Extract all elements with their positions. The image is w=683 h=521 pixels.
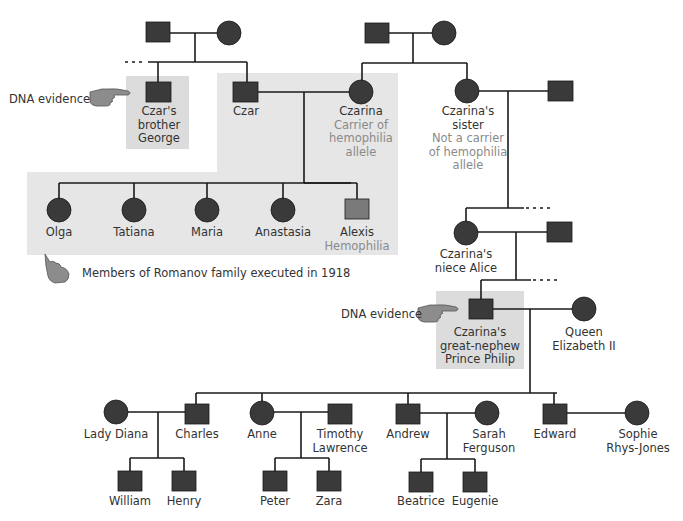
label-line: Timothy <box>312 428 367 442</box>
label-william: William <box>109 495 151 509</box>
pointing-down-hand-icon <box>45 254 69 283</box>
sister-husband-symbol <box>548 81 573 101</box>
alexis-symbol <box>345 199 369 219</box>
sophie-symbol <box>625 401 649 425</box>
label-peter: Peter <box>260 495 290 509</box>
label-zara: Zara <box>316 495 343 509</box>
label-line: Rhys-Jones <box>606 442 670 456</box>
alice-husband-symbol <box>547 222 572 242</box>
romanov-note: Members of Romanov family executed in 19… <box>82 266 350 280</box>
dna-evidence-label: DNA evidence <box>341 307 422 321</box>
czarina-symbol <box>349 80 373 104</box>
label-anne: Anne <box>247 428 277 442</box>
label-line: Not a carrier <box>429 132 508 146</box>
label-andrew: Andrew <box>386 428 429 442</box>
czarina-mother-symbol <box>432 21 456 45</box>
label-line: great-nephew <box>440 340 520 354</box>
label-niece-alice: Czarina's niece Alice <box>435 248 497 275</box>
label-line: Czarina's <box>440 326 520 340</box>
czar-father-symbol <box>146 22 170 42</box>
label-line: Sophie <box>606 428 670 442</box>
label-lady-diana: Lady Diana <box>84 428 149 442</box>
philip-symbol <box>469 299 493 319</box>
andrew-symbol <box>396 404 420 424</box>
label-czarinas-sister: Czarina's sister Not a carrier of hemoph… <box>429 105 508 173</box>
alice-symbol <box>454 221 478 245</box>
label-maria: Maria <box>191 226 223 240</box>
eugenie-symbol <box>463 472 487 492</box>
label-line: allele <box>329 146 393 160</box>
label-charles: Charles <box>175 428 218 442</box>
queen-symbol <box>572 297 596 321</box>
charles-symbol <box>185 404 209 424</box>
label-beatrice: Beatrice <box>397 495 445 509</box>
sarah-symbol <box>475 401 499 425</box>
zara-symbol <box>317 471 341 491</box>
diana-symbol <box>104 400 128 424</box>
czarina-father-symbol <box>365 23 389 43</box>
label-line: sister <box>429 119 508 133</box>
label-line: Hemophilia <box>324 240 389 254</box>
peter-symbol <box>263 471 287 491</box>
olga-symbol <box>47 198 71 222</box>
label-alexis: Alexis Hemophilia <box>324 226 389 253</box>
label-eugenie: Eugenie <box>452 495 499 509</box>
anne-symbol <box>250 401 274 425</box>
label-anastasia: Anastasia <box>255 226 311 240</box>
label-line: hemophilia <box>329 132 393 146</box>
label-line: Ferguson <box>463 442 516 456</box>
label-timothy-lawrence: Timothy Lawrence <box>312 428 367 455</box>
label-line: Carrier of <box>329 119 393 133</box>
label-tatiana: Tatiana <box>113 226 154 240</box>
label-line: Alexis <box>324 226 389 240</box>
label-line: allele <box>429 159 508 173</box>
label-line: Czar's <box>138 105 180 119</box>
tatiana-symbol <box>122 198 146 222</box>
pointing-hand-icon <box>90 89 130 106</box>
label-sophie-rhys-jones: Sophie Rhys-Jones <box>606 428 670 455</box>
anastasia-symbol <box>271 198 295 222</box>
dna-evidence-label: DNA evidence <box>9 92 90 106</box>
label-line: niece Alice <box>435 262 497 276</box>
label-czar: Czar <box>233 105 259 119</box>
william-symbol <box>118 471 142 491</box>
label-edward: Edward <box>534 428 577 442</box>
label-prince-philip: Czarina's great-nephew Prince Philip <box>440 326 520 367</box>
pedigree-diagram: DNA evidence DNA evidence Members of Rom… <box>0 0 683 521</box>
label-line: Elizabeth II <box>552 340 615 354</box>
label-line: George <box>138 132 180 146</box>
george-symbol <box>146 82 171 102</box>
label-line: of hemophilia <box>429 146 508 160</box>
label-line: Queen <box>552 326 615 340</box>
label-czars-brother: Czar's brother George <box>138 105 180 146</box>
label-sarah-ferguson: Sarah Ferguson <box>463 428 516 455</box>
timothy-symbol <box>328 404 352 424</box>
edward-symbol <box>543 404 567 424</box>
czar-mother-symbol <box>217 21 241 45</box>
label-line: Sarah <box>463 428 516 442</box>
label-line: Prince Philip <box>440 353 520 367</box>
beatrice-symbol <box>409 472 433 492</box>
label-olga: Olga <box>46 226 73 240</box>
label-line: Czarina's <box>429 105 508 119</box>
maria-symbol <box>195 198 219 222</box>
label-line: Czarina's <box>435 248 497 262</box>
czar-symbol <box>233 82 258 102</box>
label-queen: Queen Elizabeth II <box>552 326 615 353</box>
label-line: Lawrence <box>312 442 367 456</box>
label-line: Czarina <box>329 105 393 119</box>
label-czarina: Czarina Carrier of hemophilia allele <box>329 105 393 159</box>
henry-symbol <box>172 471 196 491</box>
label-henry: Henry <box>167 495 202 509</box>
czarinas-sister-symbol <box>455 79 479 103</box>
label-line: brother <box>138 119 180 133</box>
